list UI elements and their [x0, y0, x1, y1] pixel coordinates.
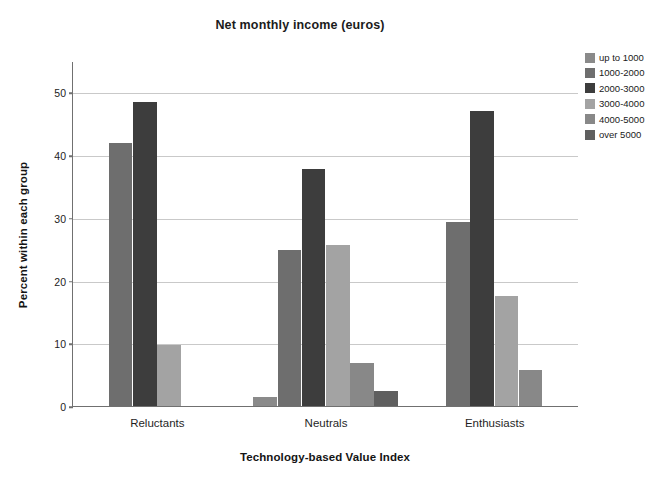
x-axis-group-label: Enthusiasts: [465, 417, 524, 429]
x-axis-title: Technology-based Value Index: [72, 451, 578, 463]
y-axis-tick-label: 50: [54, 87, 66, 99]
y-axis-tick-label: 30: [54, 213, 66, 225]
bar: [326, 245, 350, 406]
x-axis-group-label: Reluctants: [130, 417, 184, 429]
y-axis-tick-label: 10: [54, 338, 66, 350]
legend-item[interactable]: 4000-5000: [585, 112, 669, 127]
y-axis-title: Percent within each group: [14, 62, 32, 407]
legend-label: 4000-5000: [599, 115, 644, 125]
legend-item[interactable]: 1000-2000: [585, 65, 669, 80]
plot-area: 01020304050 ReluctantsNeutralsEnthusiast…: [72, 62, 578, 407]
bar: [133, 102, 157, 406]
y-axis-tick-label: 40: [54, 150, 66, 162]
bar: [278, 250, 302, 406]
legend-item[interactable]: over 5000: [585, 127, 669, 142]
legend-label: 3000-4000: [599, 99, 644, 109]
bar: [253, 397, 277, 406]
legend-item[interactable]: up to 1000: [585, 50, 669, 65]
legend-swatch-icon: [585, 68, 595, 78]
y-axis-tick-label: 20: [54, 276, 66, 288]
legend: up to 10001000-20002000-30003000-4000400…: [585, 50, 669, 142]
legend-swatch-icon: [585, 99, 595, 109]
bar: [302, 169, 326, 406]
legend-item[interactable]: 2000-3000: [585, 81, 669, 96]
bar: [519, 370, 543, 406]
legend-label: over 5000: [599, 130, 641, 140]
bar: [350, 363, 374, 406]
legend-swatch-icon: [585, 53, 595, 63]
y-axis-tick-mark: [69, 406, 73, 408]
bar: [470, 111, 494, 406]
bar: [374, 391, 398, 406]
x-axis-group-label: Neutrals: [305, 417, 348, 429]
legend-swatch-icon: [585, 83, 595, 93]
y-axis-tick-label: 0: [60, 401, 66, 413]
legend-item[interactable]: 3000-4000: [585, 96, 669, 111]
legend-swatch-icon: [585, 130, 595, 140]
bars-layer: [73, 62, 578, 406]
chart-container: Net monthly income (euros) Percent withi…: [0, 0, 670, 489]
bar: [109, 143, 133, 406]
legend-label: up to 1000: [599, 53, 644, 63]
legend-swatch-icon: [585, 114, 595, 124]
gridline: [73, 407, 578, 408]
bar: [157, 345, 181, 406]
y-axis-title-label: Percent within each group: [17, 161, 29, 307]
bar: [446, 222, 470, 406]
bar: [495, 296, 519, 406]
chart-title: Net monthly income (euros): [0, 18, 600, 32]
legend-label: 1000-2000: [599, 68, 644, 78]
legend-label: 2000-3000: [599, 84, 644, 94]
